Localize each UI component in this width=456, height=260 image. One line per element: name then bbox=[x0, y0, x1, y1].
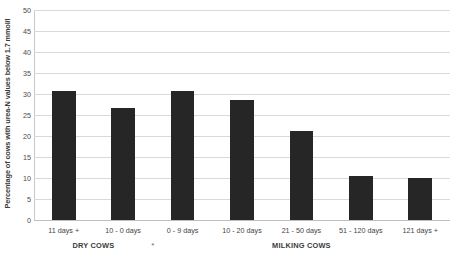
y-axis-tick-label: 10 bbox=[23, 174, 31, 183]
y-axis-tick-label: 25 bbox=[23, 111, 31, 120]
bar bbox=[171, 91, 195, 220]
bar bbox=[349, 176, 373, 220]
bar bbox=[52, 91, 76, 220]
x-axis-category-label: 11 days + bbox=[34, 226, 93, 235]
gridline bbox=[34, 220, 450, 221]
x-axis-category-label: 21 - 50 days bbox=[272, 226, 331, 235]
y-axis-tick-label: 30 bbox=[23, 90, 31, 99]
y-axis-title: Percentage of cows with urea-N values be… bbox=[0, 0, 16, 226]
y-axis-title-label: Percentage of cows with urea-N values be… bbox=[4, 18, 13, 208]
x-axis-category-label: 121 days + bbox=[391, 226, 450, 235]
x-axis-category-label: 10 - 0 days bbox=[93, 226, 152, 235]
bar bbox=[111, 108, 135, 220]
bar bbox=[408, 178, 432, 220]
bar bbox=[230, 100, 254, 220]
y-axis-tick-label: 45 bbox=[23, 27, 31, 36]
bars-layer bbox=[34, 10, 450, 220]
x-axis-category-label: 51 - 120 days bbox=[331, 226, 390, 235]
y-axis-tick-label: 50 bbox=[23, 6, 31, 15]
y-axis-tick-labels: 50454035302520151050 bbox=[16, 0, 34, 260]
group-separator-marker: * bbox=[133, 241, 173, 250]
y-axis-tick-label: 0 bbox=[27, 216, 31, 225]
plot-area bbox=[34, 10, 450, 220]
bar bbox=[290, 131, 314, 220]
y-axis-tick-label: 20 bbox=[23, 132, 31, 141]
y-axis-tick-label: 5 bbox=[27, 195, 31, 204]
x-axis-category-labels: 11 days +10 - 0 days0 - 9 days10 - 20 da… bbox=[34, 226, 450, 240]
y-axis-tick-label: 35 bbox=[23, 69, 31, 78]
y-axis-tick-label: 40 bbox=[23, 48, 31, 57]
x-axis-category-label: 10 - 20 days bbox=[212, 226, 271, 235]
y-axis-tick-label: 15 bbox=[23, 153, 31, 162]
x-axis-category-label: 0 - 9 days bbox=[153, 226, 212, 235]
bar-chart: Percentage of cows with urea-N values be… bbox=[0, 0, 456, 260]
x-axis-group-labels: DRY COWSMILKING COWS* bbox=[34, 241, 450, 257]
x-axis-group-label: MILKING COWS bbox=[241, 241, 361, 250]
